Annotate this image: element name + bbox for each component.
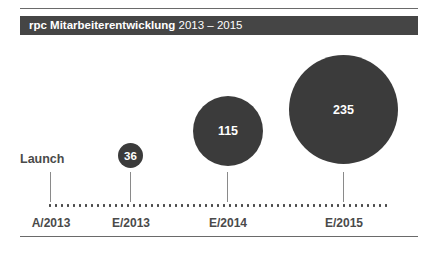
launch-annotation: Launch: [20, 152, 64, 166]
top-rule: [20, 8, 418, 9]
tick-e2014: [227, 172, 228, 202]
bubble-e2013: 36: [118, 143, 143, 168]
timeline-dotted-axis: [47, 204, 389, 207]
tick-e2015: [343, 172, 344, 202]
chart-title-years: 2013 – 2015: [179, 19, 243, 31]
tick-a2013: [50, 172, 51, 202]
bubble-e2015: 235: [289, 55, 398, 164]
bubble-value: 235: [333, 103, 354, 117]
x-label-e2015: E/2015: [325, 216, 363, 230]
bubble-value: 36: [124, 150, 137, 162]
bottom-rule: [20, 236, 418, 237]
x-label-e2014: E/2014: [209, 216, 247, 230]
tick-e2013: [130, 172, 131, 202]
chart-title: rpc Mitarbeiterentwicklung: [29, 19, 175, 31]
chart-title-banner: rpc Mitarbeiterentwicklung 2013 – 2015: [20, 16, 418, 35]
x-label-e2013: E/2013: [112, 216, 150, 230]
bubble-e2014: 115: [193, 96, 263, 166]
bubble-value: 115: [218, 124, 238, 138]
x-label-a2013: A/2013: [32, 216, 71, 230]
